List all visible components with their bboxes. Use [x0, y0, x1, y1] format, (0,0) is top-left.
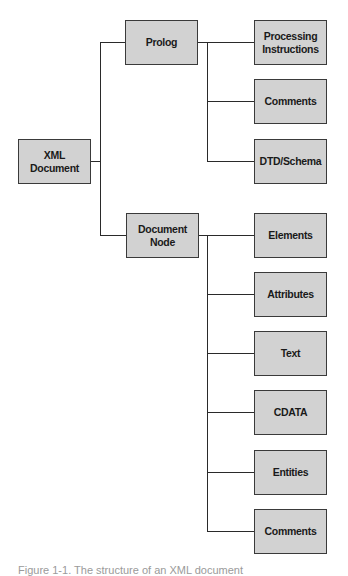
node-elements: Elements	[254, 213, 327, 258]
node-prolog-comments: Comments	[254, 79, 327, 124]
node-cdata: CDATA	[254, 390, 327, 435]
node-document-comments: Comments	[254, 509, 327, 554]
connector-to-entities	[207, 472, 254, 473]
connector-to-text	[207, 353, 254, 354]
node-dtd-schema: DTD/Schema	[254, 139, 327, 184]
connector-trunk-to-prolog	[100, 42, 125, 43]
connector-to-prolog-comments	[207, 101, 254, 102]
connector-to-cdata	[207, 412, 254, 413]
connector-document-node-out	[197, 235, 254, 236]
connector-to-document-comments	[207, 531, 254, 532]
node-prolog: Prolog	[125, 20, 198, 65]
node-document-node: Document Node	[126, 213, 199, 258]
connector-root-trunk	[100, 42, 101, 235]
node-xml-document: XML Document	[18, 139, 91, 184]
connector-to-dtd-schema	[207, 161, 254, 162]
node-attributes: Attributes	[254, 272, 327, 317]
connector-root-to-trunk	[90, 161, 100, 162]
connector-trunk-to-document-node	[100, 235, 126, 236]
connector-prolog-out	[196, 42, 254, 43]
node-entities: Entities	[254, 450, 327, 495]
figure-caption: Figure 1-1. The structure of an XML docu…	[18, 564, 243, 576]
connector-to-attributes	[207, 294, 254, 295]
node-text: Text	[254, 331, 327, 376]
node-processing-instructions: Processing Instructions	[254, 20, 327, 65]
connector-document-node-trunk	[207, 235, 208, 531]
